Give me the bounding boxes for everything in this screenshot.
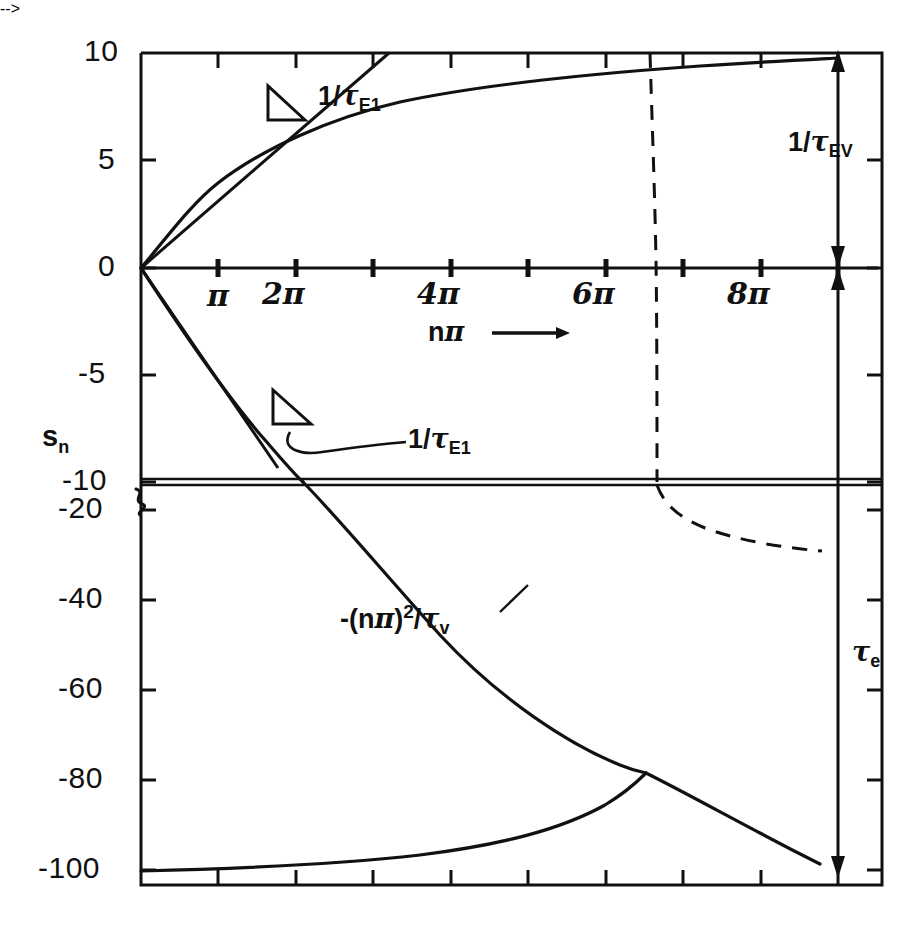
chart-figure: 10 5 0 -5 -10 -20 -40 -60 -80 -100 sn π … bbox=[0, 0, 920, 18]
annotation-parabola-lead: -(n bbox=[340, 604, 374, 634]
dashed-branch-lower bbox=[657, 485, 822, 551]
y-axis-ticks-lower bbox=[141, 510, 156, 870]
x-tick-4pi-text: 4π bbox=[417, 276, 460, 311]
x-tick-label-4pi: 4π bbox=[417, 279, 460, 309]
annotation-slope-upper-sub: E1 bbox=[359, 95, 381, 115]
y-axis-title-base: s bbox=[42, 420, 58, 452]
annotation-parabola-pi: π bbox=[374, 603, 394, 634]
curve-lower-parabolic-lower bbox=[141, 773, 646, 871]
annotation-bracket-tau-e: τe bbox=[852, 638, 880, 670]
curve-upper-positive-branch bbox=[141, 58, 838, 268]
annotation-slope-upper: 1/τE1 bbox=[318, 82, 381, 114]
annotation-parabola-close: ) bbox=[394, 604, 403, 634]
x-axis-title-pi: π bbox=[445, 316, 465, 347]
annotation-bracket-e-sub: e bbox=[870, 651, 880, 671]
x-axis-title-n: n bbox=[428, 317, 445, 347]
annotation-slope-lower-tau: τ bbox=[431, 423, 449, 454]
annotation-slope-lower-lead: 1/ bbox=[408, 424, 431, 454]
y-tick-label-minus-80: -80 bbox=[58, 763, 103, 793]
y-tick-label-minus-60: -60 bbox=[58, 673, 103, 703]
top-axis-ticks bbox=[218, 53, 838, 68]
y-axis-title-subscript: n bbox=[58, 437, 69, 457]
annotation-slope-upper-tau: τ bbox=[341, 80, 359, 111]
parabola-label-leader-line bbox=[500, 585, 528, 612]
curve-lower-descending-tail bbox=[646, 773, 820, 864]
y-axis-ticks-upper bbox=[141, 160, 156, 482]
y-tick-label-minus-20: -20 bbox=[58, 493, 103, 523]
y-tick-label-10: 10 bbox=[84, 36, 118, 66]
bottom-axis-ticks bbox=[218, 870, 838, 885]
y-axis-title: sn bbox=[42, 422, 69, 456]
plot-frame bbox=[141, 53, 882, 885]
annotation-parabola-tau: τ bbox=[421, 603, 439, 634]
y-tick-label-minus-100: -100 bbox=[38, 853, 100, 883]
x-tick-label-pi: π bbox=[207, 281, 229, 311]
right-axis-ticks bbox=[867, 160, 882, 870]
annotation-parabola-sub: v bbox=[440, 618, 450, 638]
slope-triangle-lower bbox=[273, 390, 311, 424]
annotation-bracket-ev-lead: 1/ bbox=[788, 127, 811, 157]
annotation-bracket-e-tau: τ bbox=[852, 636, 870, 667]
slope-triangle-upper bbox=[268, 86, 305, 120]
annotation-slope-lower-sub: E1 bbox=[449, 438, 471, 458]
annotation-parabola-exponent: 2 bbox=[403, 601, 414, 622]
x-axis-title: nπ bbox=[428, 318, 464, 346]
annotation-bracket-tau-ev: 1/τEV bbox=[788, 128, 853, 160]
y-tick-label-0: 0 bbox=[98, 251, 115, 281]
annotation-slope-upper-lead: 1/ bbox=[318, 81, 341, 111]
x-tick-label-8pi: 8π bbox=[727, 279, 770, 309]
slope-lower-leader-line bbox=[287, 432, 406, 453]
y-tick-label-minus-40: -40 bbox=[58, 583, 103, 613]
x-axis-zero-line bbox=[141, 259, 878, 277]
bracket-arrow-tau-e bbox=[831, 268, 845, 878]
annotation-slope-lower: 1/τE1 bbox=[408, 425, 471, 457]
y-tick-label-minus-5: -5 bbox=[78, 358, 106, 388]
annotation-bracket-ev-tau: τ bbox=[811, 126, 829, 157]
y-tick-label-5: 5 bbox=[98, 144, 115, 174]
x-tick-8pi-text: 8π bbox=[727, 276, 770, 311]
chart-canvas bbox=[0, 0, 920, 931]
x-tick-6pi-text: 6π bbox=[572, 276, 615, 311]
annotation-bracket-ev-sub: EV bbox=[829, 141, 853, 161]
x-tick-label-6pi: 6π bbox=[572, 279, 615, 309]
asymptote-line-minus-10 bbox=[141, 479, 882, 485]
annotation-parabola-formula: -(nπ)2/τv bbox=[340, 602, 450, 637]
x-tick-label-2pi: 2π bbox=[262, 279, 305, 309]
x-tick-2pi-text: 2π bbox=[262, 276, 305, 311]
x-axis-direction-arrow bbox=[492, 327, 570, 339]
